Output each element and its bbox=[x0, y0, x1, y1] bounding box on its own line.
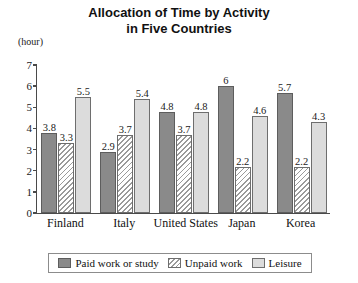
bar-unpaid-finland: 3.3 bbox=[58, 143, 74, 213]
chart-title-line1: Allocation of Time by Activity bbox=[88, 5, 269, 20]
bar-paid-korea: 5.7 bbox=[277, 93, 293, 214]
bar-group: 5.72.24.3 bbox=[277, 66, 327, 213]
bar-leisure-united-states: 4.8 bbox=[193, 112, 209, 213]
legend-label: Unpaid work bbox=[185, 257, 243, 269]
legend-item-paid: Paid work or study bbox=[58, 257, 158, 269]
bar-value-label: 3.7 bbox=[177, 124, 190, 135]
bar-unpaid-japan: 2.2 bbox=[235, 167, 251, 214]
bar-leisure-finland: 5.5 bbox=[75, 97, 91, 213]
bar-value-label: 2.2 bbox=[295, 156, 308, 167]
chart-title: Allocation of Time by Activity in Five C… bbox=[0, 5, 358, 37]
bar-group: 3.83.35.5 bbox=[41, 66, 91, 213]
x-axis-label-finland: Finland bbox=[36, 216, 95, 230]
bar-value-label: 4.6 bbox=[253, 105, 266, 116]
plot-area: 01234567 3.83.35.52.93.75.44.83.74.862.2… bbox=[36, 66, 330, 214]
legend-item-unpaid: Unpaid work bbox=[168, 257, 243, 269]
bar-paid-italy: 2.9 bbox=[100, 152, 116, 213]
chart-legend: Paid work or studyUnpaid workLeisure bbox=[48, 253, 312, 273]
x-axis-label-korea: Korea bbox=[271, 216, 330, 230]
bar-paid-finland: 3.8 bbox=[41, 133, 57, 213]
legend-label: Leisure bbox=[269, 257, 302, 269]
bar-paid-japan: 6 bbox=[218, 86, 234, 213]
bar-paid-united-states: 4.8 bbox=[159, 112, 175, 213]
bar-leisure-italy: 5.4 bbox=[134, 99, 150, 213]
bar-value-label: 2.9 bbox=[102, 141, 115, 152]
bar-group: 4.83.74.8 bbox=[159, 66, 209, 213]
legend-swatch-paid-icon bbox=[58, 258, 71, 268]
legend-item-leisure: Leisure bbox=[252, 257, 302, 269]
bar-leisure-korea: 4.3 bbox=[311, 122, 327, 213]
bar-value-label: 5.4 bbox=[136, 88, 149, 99]
bar-value-label: 5.7 bbox=[278, 82, 291, 93]
bar-leisure-japan: 4.6 bbox=[252, 116, 268, 213]
bar-group: 62.24.6 bbox=[218, 66, 268, 213]
bar-unpaid-korea: 2.2 bbox=[294, 167, 310, 214]
bar-value-label: 3.8 bbox=[43, 122, 56, 133]
bar-value-label: 2.2 bbox=[236, 156, 249, 167]
bar-unpaid-italy: 3.7 bbox=[117, 135, 133, 213]
bar-group: 2.93.75.4 bbox=[100, 66, 150, 213]
bar-value-label: 3.3 bbox=[60, 132, 73, 143]
legend-swatch-unpaid-icon bbox=[168, 258, 181, 268]
legend-label: Paid work or study bbox=[75, 257, 158, 269]
bar-value-label: 4.8 bbox=[194, 101, 207, 112]
x-axis-label-japan: Japan bbox=[212, 216, 271, 230]
bar-value-label: 3.7 bbox=[119, 124, 132, 135]
legend-swatch-leisure-icon bbox=[252, 258, 265, 268]
y-axis-unit-label: (hour) bbox=[18, 36, 43, 47]
bar-value-label: 6 bbox=[223, 75, 228, 86]
chart-title-line2: in Five Countries bbox=[0, 21, 358, 37]
x-axis-label-italy: Italy bbox=[95, 216, 154, 230]
x-axis-label-united-states: United States bbox=[154, 216, 213, 230]
bar-unpaid-united-states: 3.7 bbox=[176, 135, 192, 213]
bar-value-label: 5.5 bbox=[77, 86, 90, 97]
bar-value-label: 4.3 bbox=[312, 111, 325, 122]
bar-value-label: 4.8 bbox=[160, 101, 173, 112]
